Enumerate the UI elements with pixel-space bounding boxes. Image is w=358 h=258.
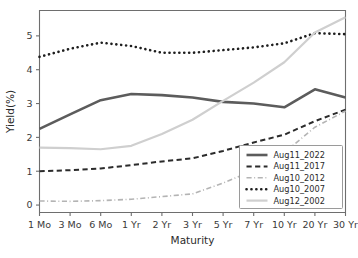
series-line-aug12_2002 — [40, 17, 346, 149]
legend-label-aug12_2002: Aug12_2002 — [274, 196, 325, 206]
series-line-aug11_2022 — [40, 89, 346, 129]
y-tick-label: 1 — [26, 166, 32, 177]
chart-figure: 0123451 Mo3 Mo6 Mo1 Yr2 Yr3 Yr5 Yr7 Yr10… — [0, 0, 358, 258]
y-axis-title: Yield(%) — [4, 90, 16, 134]
legend-label-aug11_2017: Aug11_2017 — [274, 161, 325, 171]
y-tick-label: 0 — [26, 199, 32, 210]
x-axis-title: Maturity — [171, 234, 215, 246]
legend-label-aug10_2012: Aug10_2012 — [274, 173, 325, 183]
y-tick-label: 5 — [26, 30, 32, 41]
x-tick-label: 1 Mo — [28, 219, 51, 230]
x-tick-label: 7 Yr — [244, 219, 263, 230]
x-tick-label: 3 Mo — [59, 219, 82, 230]
yield-curve-chart: 0123451 Mo3 Mo6 Mo1 Yr2 Yr3 Yr5 Yr7 Yr10… — [0, 0, 358, 258]
x-tick-label: 6 Mo — [89, 219, 112, 230]
x-tick-label: 30 Yr — [333, 219, 358, 230]
y-tick-label: 4 — [26, 64, 32, 75]
x-tick-label: 2 Yr — [153, 219, 172, 230]
x-tick-label: 1 Yr — [122, 219, 141, 230]
y-tick-label: 2 — [26, 132, 32, 143]
x-tick-label: 5 Yr — [214, 219, 233, 230]
x-tick-label: 20 Yr — [302, 219, 327, 230]
legend-label-aug11_2022: Aug11_2022 — [274, 150, 325, 160]
x-tick-label: 10 Yr — [272, 219, 297, 230]
legend-label-aug10_2007: Aug10_2007 — [274, 184, 325, 194]
y-tick-label: 3 — [26, 98, 32, 109]
x-tick-label: 3 Yr — [183, 219, 202, 230]
series-line-aug10_2007 — [40, 33, 346, 57]
